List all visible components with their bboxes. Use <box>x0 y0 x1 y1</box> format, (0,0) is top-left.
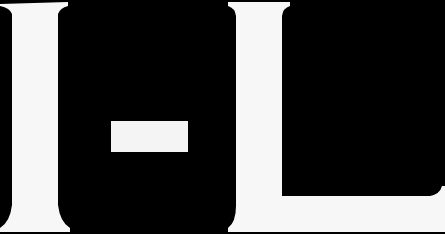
typography-canvas: I-L <box>0 0 445 234</box>
glyphs-svg <box>0 0 445 234</box>
hyphen <box>111 121 188 152</box>
